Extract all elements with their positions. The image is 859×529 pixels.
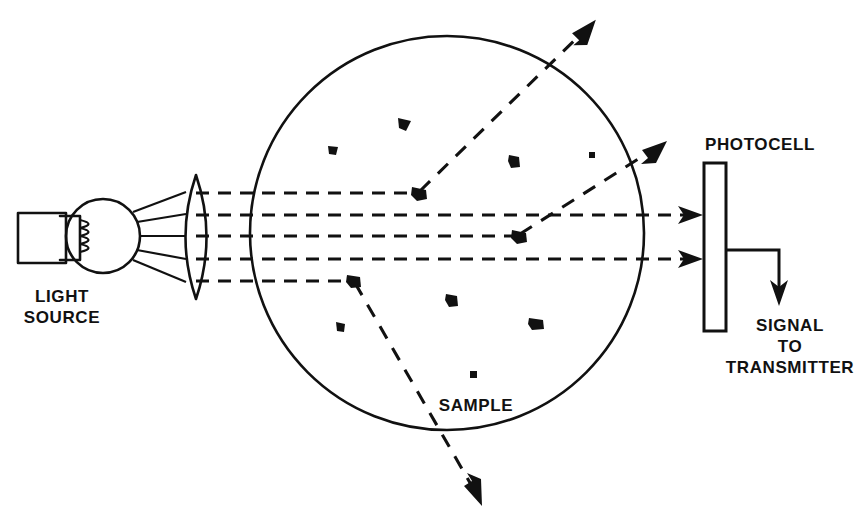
particle bbox=[470, 371, 477, 378]
light-source-label-line1: LIGHT bbox=[35, 287, 89, 306]
signal-output-wire bbox=[726, 250, 788, 306]
particle bbox=[328, 146, 338, 155]
scatter-ray-up-left bbox=[420, 31, 584, 191]
light-source-lamp bbox=[18, 199, 140, 273]
diagram-canvas: LIGHT SOURCE SAMPLE PHOTOCELL SIGNAL TO … bbox=[0, 0, 859, 529]
particle bbox=[445, 294, 458, 307]
collimated-beams bbox=[196, 193, 698, 281]
light-source-label-line2: SOURCE bbox=[24, 308, 100, 327]
photocell-label: PHOTOCELL bbox=[705, 135, 815, 154]
lamp-bulb bbox=[66, 199, 140, 273]
scatter-ray-down bbox=[355, 283, 473, 488]
signal-label-line2: TO bbox=[778, 337, 803, 356]
scatter-ray-up-right bbox=[520, 149, 654, 234]
photocell-detector bbox=[704, 163, 726, 331]
sample-label: SAMPLE bbox=[439, 396, 513, 415]
diverging-ray-5 bbox=[133, 260, 186, 282]
scattering-diagram: LIGHT SOURCE SAMPLE PHOTOCELL SIGNAL TO … bbox=[0, 0, 859, 529]
particle bbox=[589, 152, 595, 158]
sample-particles bbox=[328, 118, 595, 378]
photocell-outline bbox=[704, 163, 726, 331]
lamp-base bbox=[18, 213, 66, 263]
particle bbox=[336, 322, 345, 332]
particle bbox=[508, 155, 520, 168]
scatter-arrowhead-down bbox=[464, 473, 482, 506]
particle bbox=[411, 187, 427, 201]
diverging-ray-2 bbox=[137, 214, 186, 222]
sample-chamber-circle bbox=[250, 36, 644, 430]
diverging-ray-1 bbox=[133, 192, 186, 212]
particle bbox=[398, 118, 411, 131]
signal-label-line1: SIGNAL bbox=[756, 316, 824, 335]
signal-label-line3: TRANSMITTER bbox=[726, 358, 854, 377]
scatter-arrowhead-up-left bbox=[572, 20, 596, 45]
particle bbox=[346, 275, 361, 288]
diverging-ray-4 bbox=[137, 250, 186, 259]
scatter-arrowhead-up-right bbox=[641, 141, 667, 164]
particle bbox=[528, 318, 544, 330]
scattered-rays bbox=[355, 20, 667, 506]
